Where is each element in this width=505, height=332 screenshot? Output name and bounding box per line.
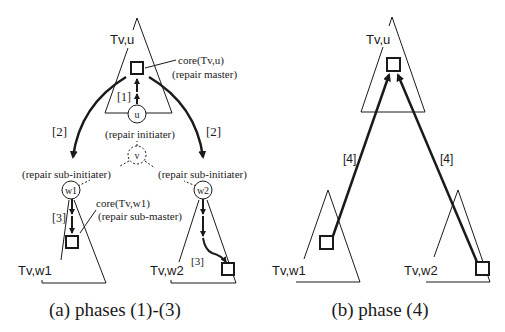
tree-root-b: Tv,u: [361, 17, 425, 112]
panel-a: Tv,u core(Tv,u) (repair master) u [1] (r…: [18, 18, 247, 321]
node-w1-label: w1: [65, 185, 77, 196]
phase3-right-arrow-3: [203, 238, 226, 262]
tree-right-a: w2 [3] Tv,w2: [150, 181, 236, 283]
u-role-label: (repair initiater): [105, 128, 175, 141]
core-root-pointer: [145, 60, 176, 68]
w2-role-label: (repair sub-initiater): [158, 168, 247, 181]
figure-canvas: Tv,u core(Tv,u) (repair master) u [1] (r…: [0, 0, 505, 332]
phase1-label: [1]: [117, 90, 131, 104]
core-w1-square: [66, 236, 78, 248]
tree-right-label: Tv,w2: [150, 263, 184, 278]
phase4-arrow-left: [333, 75, 389, 236]
tree-left-b: Tv,w1: [272, 190, 360, 282]
caption-b: (b) phase (4): [331, 299, 428, 321]
core-root-square-b: [387, 58, 400, 71]
panel-b: Tv,u Tv,w1 Tv,w2 [4] [4] (b) phase (4): [272, 17, 490, 321]
w1-role-label: (repair sub-initiater): [22, 168, 111, 181]
node-u: u: [128, 105, 146, 123]
node-v: v: [120, 141, 155, 168]
phase2-right-label: [2]: [206, 124, 221, 139]
w1-role-pointer: [78, 180, 90, 186]
phase4-right-label: [4]: [440, 152, 453, 166]
tree-root-label-b: Tv,u: [366, 32, 390, 47]
tree-left-label-b: Tv,w1: [272, 263, 306, 278]
core-root-square: [131, 62, 143, 74]
core-w2-square-b: [476, 262, 489, 275]
node-v-label: v: [135, 150, 140, 161]
tree-root-label: Tv,u: [110, 32, 134, 47]
core-w2-square: [222, 263, 234, 275]
phase3-right-label: [3]: [191, 255, 204, 267]
phase4-left-label: [4]: [343, 152, 356, 166]
core-root-label: core(Tv,u): [178, 54, 224, 67]
phase3-left-label: [3]: [52, 211, 66, 225]
core-w1-role: (repair sub-master): [98, 210, 182, 223]
caption-a: (a) phases (1)-(3): [49, 299, 181, 321]
tree-right-label-b: Tv,w2: [404, 263, 438, 278]
tree-left-label: Tv,w1: [18, 263, 52, 278]
tree-right-b: Tv,w2: [404, 190, 490, 282]
phase2-arrow-left: [73, 77, 126, 157]
node-w2-label: w2: [197, 185, 209, 196]
phase4-arrow-right: [398, 75, 477, 262]
phase2-arrow-right: [149, 77, 203, 157]
core-root-role: (repair master): [172, 68, 237, 81]
w2-role-pointer: [184, 181, 196, 186]
core-w1-label: core(Tv,w1): [96, 197, 150, 210]
phase2-left-label: [2]: [52, 124, 67, 139]
core-w1-square-b: [320, 236, 333, 249]
node-u-label: u: [135, 109, 140, 120]
